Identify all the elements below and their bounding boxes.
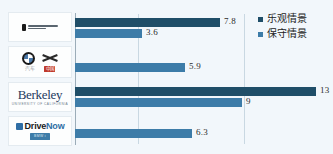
category-label-universitat [8, 12, 72, 42]
category-label-bmw: 汽车 中国 [8, 46, 72, 78]
legend-swatch-conservative-icon [258, 32, 263, 37]
chart-screenshot: 汽车 中国 Berkeley UNIVERSITY OF CALIFORNIA … [0, 0, 333, 154]
bar-conservative-bmw [75, 63, 185, 72]
legend-label-conservative: 保守情景 [267, 29, 307, 39]
bmw-partner-cn-text: 汽车 [25, 66, 35, 71]
category-label-berkeley: Berkeley UNIVERSITY OF CALIFORNIA [8, 82, 72, 112]
bar-label-optimistic-berkeley: 13 [320, 85, 329, 95]
category-label-drivenow: DriveNow BMW i [8, 116, 72, 146]
universitat-wordmark-icon [28, 25, 58, 29]
universitat-crest-icon [22, 24, 26, 31]
bar-label-conservative-berkeley: 9 [246, 96, 251, 106]
berkeley-wordmark: Berkeley [18, 88, 63, 101]
partner-swoosh-icon [42, 52, 58, 64]
drivenow-logo: DriveNow [16, 122, 65, 131]
legend-swatch-optimistic-icon [258, 17, 263, 22]
universitat-logo [22, 24, 58, 31]
bar-label-conservative-bmw: 5.9 [189, 61, 201, 71]
bar-conservative-berkeley [75, 98, 242, 107]
bar-optimistic-universitat [75, 18, 220, 27]
bmw-partner-sublabels: 汽车 中国 [25, 66, 55, 72]
drivenow-wordmark-part1: Drive [25, 121, 47, 131]
legend-label-optimistic: 乐观情景 [267, 14, 307, 24]
berkeley-subtitle: UNIVERSITY OF CALIFORNIA [12, 102, 68, 106]
chart-legend: 乐观情景 保守情景 [258, 14, 307, 44]
drivenow-wordmark-part2: Now [46, 121, 64, 131]
bar-label-optimistic-universitat: 7.8 [224, 16, 236, 26]
bar-conservative-universitat [75, 29, 142, 38]
legend-item-conservative: 保守情景 [258, 29, 307, 39]
bar-label-conservative-drivenow: 6.3 [196, 127, 208, 137]
bmw-partner-badge: 中国 [44, 66, 55, 72]
drivenow-mark-icon [16, 123, 23, 130]
drivenow-wordmark: DriveNow [25, 122, 65, 131]
bar-conservative-drivenow [75, 129, 192, 138]
bar-label-conservative-universitat: 3.6 [146, 27, 158, 37]
legend-item-optimistic: 乐观情景 [258, 14, 307, 24]
category-logo-column: 汽车 中国 Berkeley UNIVERSITY OF CALIFORNIA … [8, 12, 72, 146]
bar-optimistic-berkeley [75, 87, 316, 96]
gridline-2 [244, 14, 245, 144]
drivenow-badge: BMW i [30, 133, 50, 139]
bmw-roundel-icon [22, 52, 35, 65]
bmw-logo-row [22, 52, 58, 65]
